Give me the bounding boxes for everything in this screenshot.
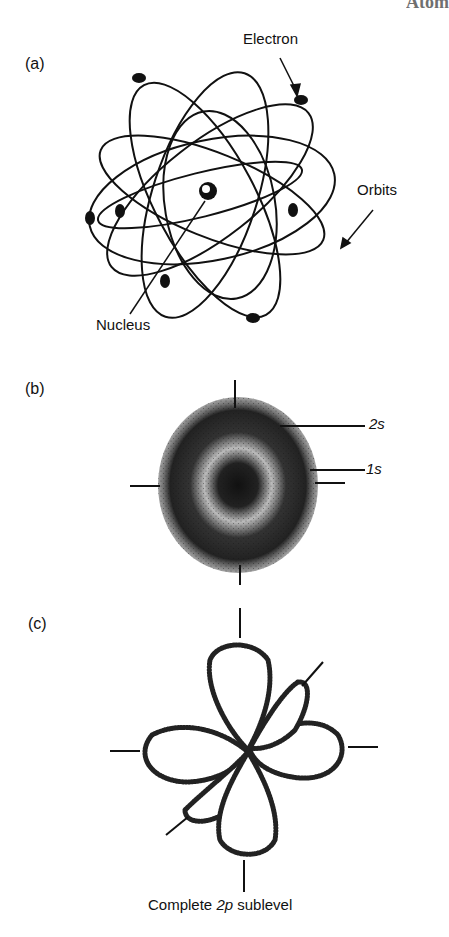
nucleus-icon [199,182,217,200]
orbital-2s-text: 2s [369,415,385,432]
caption-italic: 2p [216,896,233,913]
orbital-1s-text: 1s [366,460,382,477]
orbital-1s-label: 1s [366,460,382,477]
panel-c-label: (c) [28,615,47,633]
panel-b-label: (b) [25,380,45,398]
bohr-atom-diagram [0,0,443,360]
caption-suffix: sublevel [233,896,292,913]
caption-prefix: Complete [148,896,216,913]
orbital-2s-label: 2s [369,415,385,432]
p-sublevel-caption: Complete 2p sublevel [148,896,292,913]
